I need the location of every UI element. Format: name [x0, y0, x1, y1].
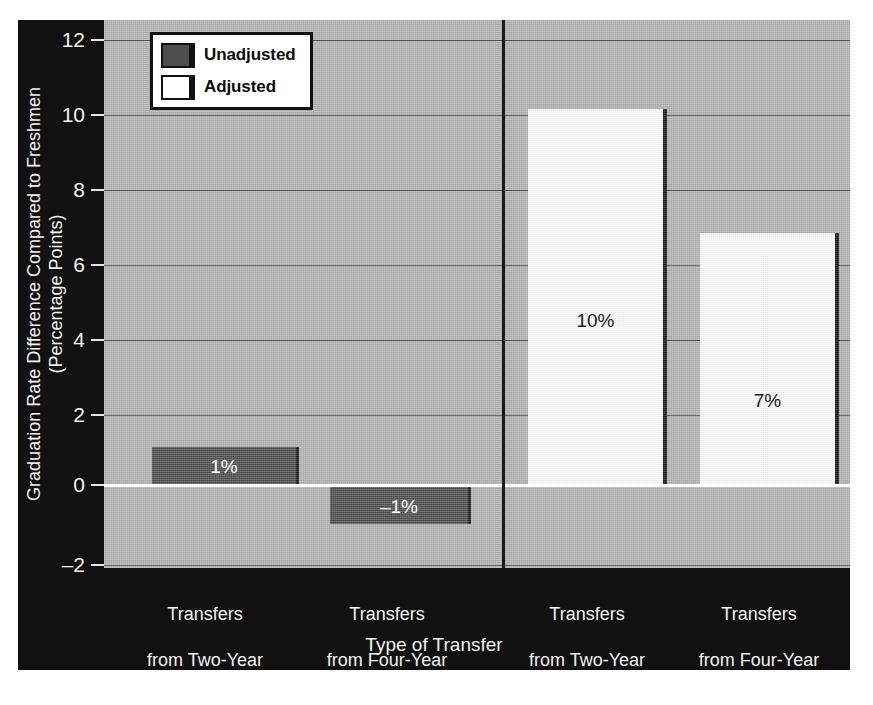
- legend-item-adjusted[interactable]: Adjusted: [161, 74, 296, 100]
- y-tick-10: 10: [18, 105, 104, 125]
- bar-label-unadjusted-four-year: –1%: [330, 496, 468, 518]
- x-axis-title: Type of Transfer: [18, 634, 850, 656]
- y-tick-12: 12: [18, 30, 104, 50]
- legend-label-unadjusted: Unadjusted: [204, 45, 296, 65]
- y-axis-ticks: 12 10 8 6 4 2 0 –2: [18, 20, 104, 568]
- plot-area: 1% –1% 10% 7% Unadjusted Adjusted: [104, 20, 850, 568]
- bar-adjusted-two-year[interactable]: [528, 109, 663, 484]
- bar-label-adjusted-four-year: 7%: [700, 390, 835, 412]
- y-tick-minus-2: –2: [18, 555, 104, 575]
- gridline-10: [104, 115, 850, 116]
- bar-label-adjusted-two-year: 10%: [528, 310, 663, 332]
- y-tick-4: 4: [18, 330, 104, 350]
- bar-label-unadjusted-two-year: 1%: [152, 456, 296, 478]
- legend-item-unadjusted[interactable]: Unadjusted: [161, 42, 296, 68]
- bar-adjusted-four-year[interactable]: [700, 233, 835, 484]
- gridline-minus-2: [104, 565, 850, 566]
- gridline-8: [104, 190, 850, 191]
- zero-line: [104, 484, 850, 487]
- y-tick-8: 8: [18, 180, 104, 200]
- x-tick-line1: Transfers: [292, 603, 482, 626]
- bar-chart-figure: 1% –1% 10% 7% Unadjusted Adjusted 12 10: [0, 0, 873, 705]
- y-tick-2: 2: [18, 405, 104, 425]
- y-tick-6: 6: [18, 255, 104, 275]
- x-tick-line1: Transfers: [492, 603, 682, 626]
- y-tick-0: 0: [18, 475, 104, 495]
- x-tick-line1: Transfers: [664, 603, 854, 626]
- legend-label-adjusted: Adjusted: [204, 77, 276, 97]
- chart-legend: Unadjusted Adjusted: [150, 32, 313, 110]
- group-divider: [502, 20, 505, 568]
- legend-swatch-adjusted-icon: [161, 75, 191, 100]
- legend-swatch-unadjusted-icon: [161, 43, 191, 68]
- x-tick-line1: Transfers: [110, 603, 300, 626]
